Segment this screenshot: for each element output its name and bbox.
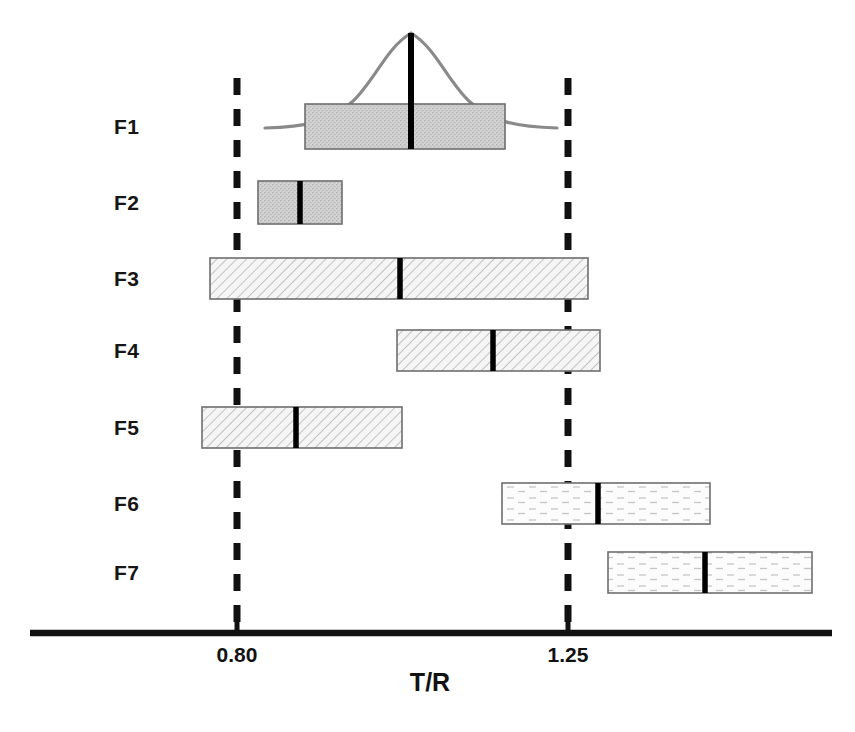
interval-bar-f4[interactable] <box>397 330 600 371</box>
interval-bar-f5[interactable] <box>202 407 402 448</box>
category-label-f6: F6 <box>114 492 139 516</box>
category-label-f7: F7 <box>114 561 139 585</box>
x-tick-label-080: 0.80 <box>217 643 258 667</box>
x-axis-title: T/R <box>410 668 450 697</box>
interval-bar-f7[interactable] <box>608 552 812 593</box>
chart-canvas <box>0 0 855 732</box>
category-label-f2: F2 <box>114 191 139 215</box>
interval-bar-f1[interactable] <box>305 33 505 149</box>
x-axis <box>30 612 832 633</box>
interval-bar-f6[interactable] <box>502 483 710 524</box>
interval-bar-f2[interactable] <box>258 181 342 224</box>
category-label-f4: F4 <box>114 339 139 363</box>
interval-bar-f3[interactable] <box>210 258 588 299</box>
x-tick-label-125: 1.25 <box>548 643 589 667</box>
category-label-f1: F1 <box>114 115 139 139</box>
category-label-f3: F3 <box>114 267 139 291</box>
bioequivalence-forest-plot: F1 F2 F3 F4 F5 F6 F7 0.80 1.25 T/R <box>0 0 855 732</box>
category-label-f5: F5 <box>114 416 139 440</box>
